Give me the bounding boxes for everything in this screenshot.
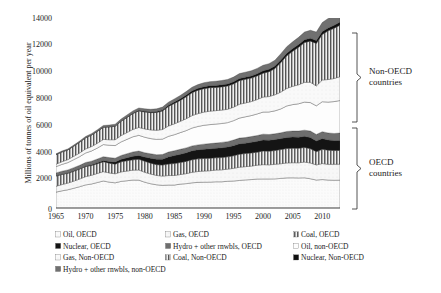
legend-swatch	[166, 255, 171, 260]
legend-swatch	[56, 232, 61, 237]
legend-swatch	[56, 255, 61, 260]
legend-swatch	[294, 243, 299, 248]
x-tick-label: 1970	[78, 212, 94, 221]
legend-swatch	[166, 243, 171, 248]
energy-consumption-chart: Millions of tonnes of oil equivalent per…	[0, 0, 441, 293]
y-tick-label: 6000	[36, 121, 52, 130]
legend-item-label: Coal, OECD	[301, 230, 340, 239]
non-oecd-bracket-label-line1: Non-OECD	[369, 66, 412, 76]
y-tick-label: 12000	[32, 40, 52, 49]
chart-svg: Millions of tonnes of oil equivalent per…	[0, 0, 441, 293]
x-tick-label: 1995	[226, 212, 242, 221]
y-tick-label: 14000	[32, 14, 52, 23]
legend-item-label: Nuclear, OECD	[63, 242, 111, 251]
x-tick-label: 1990	[196, 212, 212, 221]
legend-item-label: Gas, Non-OECD	[63, 253, 115, 262]
x-tick-label: 2005	[285, 212, 301, 221]
legend-item-label: Hydro + other rnwbls, OECD	[173, 242, 263, 251]
non-oecd-bracket-label-line2: countries	[369, 77, 402, 87]
legend-item-label: Hydro + other rnwbls, non-OECD	[63, 265, 166, 274]
x-tick-label: 1965	[48, 212, 64, 221]
legend-item-label: Nuclear, Non-OECD	[301, 253, 365, 262]
oecd-bracket-label-line2: countries	[369, 168, 402, 178]
y-tick-label: 2000	[36, 174, 52, 183]
x-tick-label: 1980	[137, 212, 153, 221]
oecd-bracket-label-line1: OECD	[369, 157, 394, 167]
legend-swatch	[294, 232, 299, 237]
legend-swatch	[166, 232, 171, 237]
y-tick-label: 10000	[32, 67, 52, 76]
x-tick-label: 1975	[107, 212, 123, 221]
legend-item-label: Oil, non-OECD	[301, 242, 349, 251]
x-tick-label: 2010	[314, 212, 330, 221]
x-tick-label: 2000	[255, 212, 271, 221]
legend-swatch	[56, 243, 61, 248]
y-tick-label: 4000	[36, 148, 52, 157]
legend-item-label: Gas, OECD	[173, 230, 209, 239]
x-tick-label: 1985	[166, 212, 182, 221]
legend-swatch	[56, 266, 61, 271]
legend-item-label: Coal, Non-OECD	[173, 253, 227, 262]
legend-swatch	[294, 255, 299, 260]
legend-item-label: Oil, OECD	[63, 230, 97, 239]
y-axis-label: Millions of tonnes of oil equivalent per…	[24, 42, 33, 183]
y-tick-label: 8000	[36, 94, 52, 103]
